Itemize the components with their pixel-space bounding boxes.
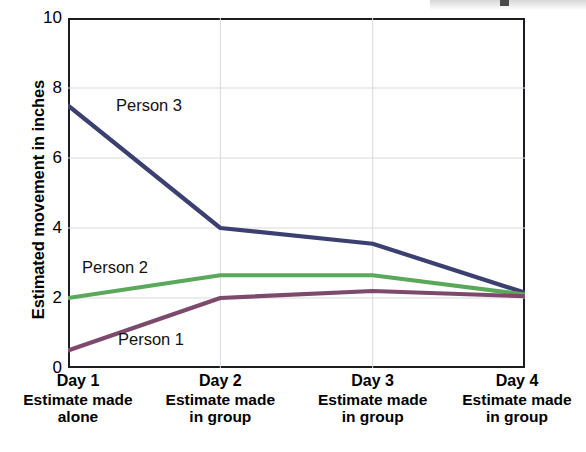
- x-axis-tick-labels: Day 1 Estimate made alone Day 2 Estimate…: [0, 372, 586, 452]
- series-label-person-2: Person 2: [82, 258, 148, 277]
- y-tick-label: 10: [32, 9, 62, 26]
- x-category-day: Day 3: [298, 372, 448, 390]
- plot-area: Person 3 Person 2 Person 1: [68, 18, 525, 368]
- x-category-condition: Estimate made in group: [298, 391, 448, 426]
- x-category-label: Day 3 Estimate made in group: [298, 372, 448, 426]
- y-tick-label: 2: [32, 289, 62, 306]
- x-category-day: Day 1: [3, 372, 153, 390]
- x-category-day: Day 4: [442, 372, 586, 390]
- x-category-label: Day 2 Estimate made in group: [145, 372, 295, 426]
- series-label-person-1: Person 1: [118, 330, 184, 349]
- x-category-label: Day 4 Estimate made in group: [442, 372, 586, 426]
- x-category-label: Day 1 Estimate made alone: [3, 372, 153, 426]
- x-category-day: Day 2: [145, 372, 295, 390]
- scan-artifact-smudge: [430, 0, 586, 10]
- y-tick-label: 6: [32, 149, 62, 166]
- line-chart-figure: Estimated movement in inches 10 8 6 4 2 …: [0, 0, 586, 452]
- x-category-condition: Estimate made alone: [3, 391, 153, 426]
- series-label-person-3: Person 3: [116, 96, 182, 115]
- series-lines-svg: [68, 18, 525, 368]
- x-category-condition: Estimate made in group: [442, 391, 586, 426]
- x-category-condition: Estimate made in group: [145, 391, 295, 426]
- scan-artifact-mark: [500, 0, 509, 6]
- gridlines: [68, 18, 525, 368]
- y-tick-label: 8: [32, 79, 62, 96]
- y-tick-label: 4: [32, 219, 62, 236]
